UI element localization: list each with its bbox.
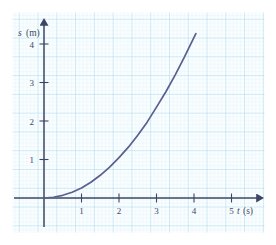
x-tick-label-2: 2 — [117, 206, 122, 216]
displacement-time-graph: 1 2 3 4 1 2 3 4 5 s (m) t (s) — [0, 0, 276, 245]
y-axis-unit: (m) — [26, 28, 40, 39]
y-tick-label-2: 2 — [30, 117, 35, 127]
y-axis-symbol: s — [18, 28, 22, 38]
y-tick-label-4: 4 — [30, 40, 35, 50]
x-tick-label-4: 4 — [192, 206, 197, 216]
x-tick-label-3: 3 — [154, 206, 159, 216]
graph-figure: 1 2 3 4 1 2 3 4 5 s (m) t (s) — [0, 0, 276, 245]
x-axis-symbol: t — [237, 206, 240, 216]
y-tick-label-1: 1 — [30, 155, 35, 165]
x-tick-label-5: 5 — [229, 206, 234, 216]
graph-paper-grid — [13, 13, 265, 233]
x-axis-unit: (s) — [243, 206, 253, 217]
y-tick-label-3: 3 — [30, 78, 35, 88]
graph-paper — [13, 13, 265, 233]
x-tick-label-1: 1 — [79, 206, 84, 216]
